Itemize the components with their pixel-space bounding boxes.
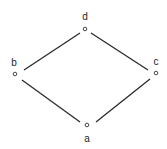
node-d: d xyxy=(82,11,88,31)
node-c-marker xyxy=(154,71,158,75)
edge-d-b xyxy=(24,33,80,70)
nodes: d b c a xyxy=(11,11,158,144)
node-c-label: c xyxy=(154,56,159,67)
edge-c-a xyxy=(96,79,150,122)
node-a-marker xyxy=(85,123,89,127)
node-a: a xyxy=(84,123,90,144)
edges xyxy=(22,33,150,122)
edge-b-a xyxy=(22,80,80,122)
node-a-label: a xyxy=(84,133,90,144)
node-d-label: d xyxy=(82,11,88,22)
edge-d-c xyxy=(91,33,148,70)
node-b-label: b xyxy=(11,57,17,68)
hasse-diagram: d b c a xyxy=(0,0,167,149)
node-b-marker xyxy=(13,72,17,76)
node-b: b xyxy=(11,57,17,76)
node-d-marker xyxy=(83,27,87,31)
node-c: c xyxy=(154,56,159,75)
